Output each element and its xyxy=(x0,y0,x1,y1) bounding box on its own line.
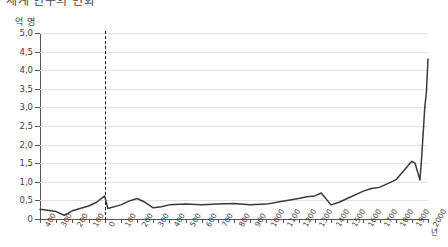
y-tick-label: 4,5 xyxy=(0,48,33,56)
epoch-divider-dashed-line xyxy=(105,31,106,220)
gridline xyxy=(40,145,428,146)
gridline xyxy=(40,126,428,127)
x-tick-mark xyxy=(121,219,122,223)
y-tick-label: 3,0 xyxy=(0,103,33,111)
x-tick-mark xyxy=(56,219,57,223)
x-tick-mark xyxy=(283,219,284,223)
y-tick-label: 1,0 xyxy=(0,178,33,186)
gridline xyxy=(40,70,428,71)
x-tick-mark xyxy=(72,219,73,223)
gridline xyxy=(40,107,428,108)
y-axis-unit-label: 억 명 xyxy=(15,15,35,28)
y-tick-mark xyxy=(35,163,40,164)
gridline xyxy=(40,89,428,90)
gridline xyxy=(40,182,428,183)
x-tick-label: 0 xyxy=(107,220,117,229)
y-tick-mark xyxy=(35,145,40,146)
x-tick-mark xyxy=(347,219,348,223)
y-tick-label: 2,5 xyxy=(0,122,33,130)
x-axis-unit-label: 년 xyxy=(431,226,438,237)
x-tick-mark xyxy=(363,219,364,223)
y-tick-label: 5,0 xyxy=(0,29,33,37)
x-tick-mark xyxy=(331,219,332,223)
x-tick-mark xyxy=(234,219,235,223)
gridline xyxy=(40,52,428,53)
x-tick-mark xyxy=(186,219,187,223)
y-tick-label: 0 xyxy=(0,215,33,223)
y-tick-mark xyxy=(35,107,40,108)
y-tick-mark xyxy=(35,33,40,34)
x-tick-mark xyxy=(153,219,154,223)
y-tick-mark xyxy=(35,200,40,201)
x-tick-mark xyxy=(169,219,170,223)
x-tick-mark xyxy=(396,219,397,223)
x-tick-mark xyxy=(40,219,41,223)
x-tick-mark xyxy=(89,219,90,223)
y-tick-mark xyxy=(35,89,40,90)
gridline xyxy=(40,200,428,201)
x-tick-mark xyxy=(380,219,381,223)
x-tick-mark xyxy=(428,219,429,223)
x-tick-mark xyxy=(250,219,251,223)
x-tick-mark xyxy=(202,219,203,223)
y-tick-label: 2,0 xyxy=(0,141,33,149)
chart-title-cropped: 세계 인구의 변화 xyxy=(0,0,440,10)
y-tick-mark xyxy=(35,70,40,71)
gridline xyxy=(40,163,428,164)
y-tick-label: 3,5 xyxy=(0,85,33,93)
gridline xyxy=(40,33,428,34)
x-tick-mark xyxy=(412,219,413,223)
y-tick-mark xyxy=(35,52,40,53)
y-tick-mark xyxy=(35,126,40,127)
y-tick-mark xyxy=(35,182,40,183)
x-tick-mark xyxy=(137,219,138,223)
x-tick-mark xyxy=(299,219,300,223)
plot-area xyxy=(40,33,428,219)
y-tick-label: 1,5 xyxy=(0,159,33,167)
x-tick-mark xyxy=(315,219,316,223)
page-title: 세계 인구의 변화 xyxy=(6,0,95,8)
y-tick-label: 0,5 xyxy=(0,196,33,204)
x-tick-mark xyxy=(218,219,219,223)
y-tick-label: 4,0 xyxy=(0,66,33,74)
x-tick-mark xyxy=(266,219,267,223)
